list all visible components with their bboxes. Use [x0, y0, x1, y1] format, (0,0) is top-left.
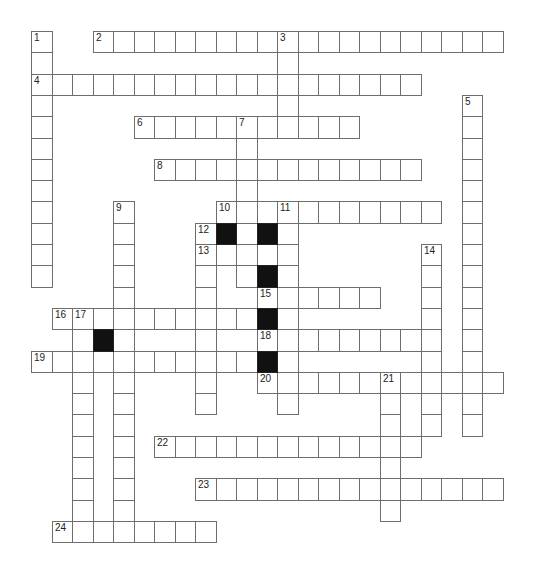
grid-cell[interactable] [482, 31, 504, 53]
grid-cell[interactable] [72, 351, 94, 373]
grid-cell[interactable] [421, 287, 442, 309]
grid-cell[interactable] [277, 265, 299, 288]
grid-cell[interactable]: 9 [113, 201, 135, 224]
grid-cell[interactable] [216, 31, 237, 53]
grid-cell[interactable] [421, 372, 442, 394]
grid-cell[interactable] [175, 74, 196, 96]
grid-cell[interactable] [462, 223, 483, 245]
grid-cell[interactable] [257, 478, 278, 501]
grid-cell[interactable]: 19 [31, 351, 53, 373]
grid-cell[interactable] [421, 31, 442, 53]
grid-cell[interactable]: 22 [154, 436, 176, 458]
grid-cell[interactable] [113, 287, 135, 309]
grid-cell[interactable]: 10 [216, 201, 237, 224]
grid-cell[interactable] [400, 31, 422, 53]
grid-cell[interactable] [31, 223, 53, 245]
grid-cell[interactable] [339, 478, 360, 501]
grid-cell[interactable] [175, 159, 196, 181]
grid-cell[interactable] [421, 201, 442, 224]
grid-cell[interactable] [72, 478, 94, 501]
grid-cell[interactable] [31, 52, 53, 75]
grid-cell[interactable] [175, 116, 196, 139]
grid-cell[interactable] [195, 393, 217, 415]
grid-cell[interactable] [482, 372, 504, 394]
grid-cell[interactable] [400, 201, 422, 224]
grid-cell[interactable] [441, 31, 463, 53]
grid-cell[interactable] [462, 287, 483, 309]
grid-cell[interactable]: 18 [257, 329, 278, 352]
grid-cell[interactable]: 17 [72, 308, 94, 330]
grid-cell[interactable] [277, 308, 299, 330]
grid-cell[interactable]: 11 [277, 201, 299, 224]
grid-cell[interactable]: 15 [257, 287, 278, 309]
grid-cell[interactable] [380, 414, 401, 437]
grid-cell[interactable] [31, 95, 53, 117]
grid-cell[interactable] [154, 116, 176, 139]
grid-cell[interactable] [113, 244, 135, 266]
grid-cell[interactable] [257, 159, 278, 181]
grid-cell[interactable] [359, 74, 381, 96]
grid-cell[interactable] [113, 457, 135, 479]
grid-cell[interactable] [359, 436, 381, 458]
grid-cell[interactable]: 4 [31, 74, 53, 96]
grid-cell[interactable]: 14 [421, 244, 442, 266]
grid-cell[interactable] [462, 244, 483, 266]
grid-cell[interactable] [195, 116, 217, 139]
grid-cell[interactable]: 13 [195, 244, 217, 266]
grid-cell[interactable] [195, 436, 217, 458]
grid-cell[interactable] [462, 393, 483, 415]
grid-cell[interactable] [380, 329, 401, 352]
grid-cell[interactable]: 3 [277, 31, 299, 53]
grid-cell[interactable] [441, 478, 463, 501]
grid-cell[interactable] [154, 521, 176, 543]
grid-cell[interactable] [400, 74, 422, 96]
grid-cell[interactable]: 6 [134, 116, 155, 139]
grid-cell[interactable]: 7 [236, 116, 258, 139]
grid-cell[interactable] [93, 521, 114, 543]
grid-cell[interactable] [154, 74, 176, 96]
grid-cell[interactable] [462, 201, 483, 224]
grid-cell[interactable] [72, 414, 94, 437]
grid-cell[interactable] [380, 159, 401, 181]
grid-cell[interactable] [359, 372, 381, 394]
grid-cell[interactable] [175, 436, 196, 458]
grid-cell[interactable] [400, 372, 422, 394]
grid-cell[interactable] [113, 308, 135, 330]
grid-cell[interactable] [52, 74, 73, 96]
grid-cell[interactable] [298, 74, 319, 96]
grid-cell[interactable] [277, 223, 299, 245]
grid-cell[interactable] [298, 372, 319, 394]
grid-cell[interactable] [359, 201, 381, 224]
grid-cell[interactable] [72, 521, 94, 543]
grid-cell[interactable] [359, 31, 381, 53]
grid-cell[interactable] [277, 351, 299, 373]
grid-cell[interactable] [380, 31, 401, 53]
grid-cell[interactable] [236, 201, 258, 224]
grid-cell[interactable] [400, 478, 422, 501]
grid-cell[interactable] [462, 308, 483, 330]
grid-cell[interactable] [195, 521, 217, 543]
grid-cell[interactable] [277, 159, 299, 181]
grid-cell[interactable] [154, 351, 176, 373]
grid-cell[interactable] [400, 436, 422, 458]
grid-cell[interactable] [359, 478, 381, 501]
grid-cell[interactable] [195, 329, 217, 352]
grid-cell[interactable] [277, 287, 299, 309]
grid-cell[interactable] [318, 478, 340, 501]
grid-cell[interactable] [31, 138, 53, 160]
grid-cell[interactable] [421, 351, 442, 373]
grid-cell[interactable] [421, 478, 442, 501]
grid-cell[interactable] [318, 287, 340, 309]
grid-cell[interactable] [380, 478, 401, 501]
grid-cell[interactable] [175, 31, 196, 53]
grid-cell[interactable] [134, 351, 155, 373]
grid-cell[interactable] [236, 265, 258, 288]
grid-cell[interactable] [72, 329, 94, 352]
grid-cell[interactable] [195, 308, 217, 330]
grid-cell[interactable] [421, 308, 442, 330]
grid-cell[interactable] [113, 223, 135, 245]
grid-cell[interactable] [482, 478, 504, 501]
grid-cell[interactable] [216, 436, 237, 458]
grid-cell[interactable] [195, 351, 217, 373]
grid-cell[interactable] [134, 521, 155, 543]
